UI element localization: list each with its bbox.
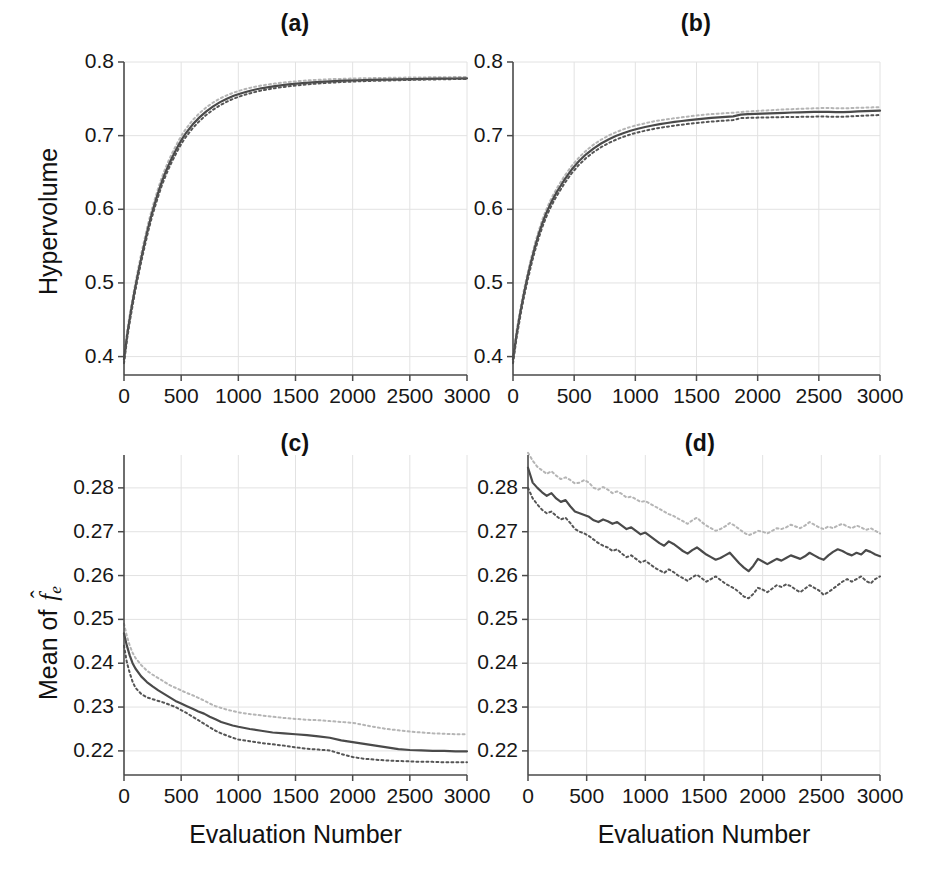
y-tick-label-b: 0.6 [474, 196, 503, 220]
y-tick-label-c: 0.28 [73, 475, 114, 499]
y-tick-label-a: 0.4 [85, 344, 114, 368]
y-tick-label-d: 0.24 [477, 650, 518, 674]
y-axis-title-prefix: Mean of [34, 603, 62, 700]
axes-b [507, 62, 880, 381]
y-tick-label-c: 0.23 [73, 694, 114, 718]
panel-d: 0.220.230.240.250.260.270.28050010001500… [418, 443, 894, 821]
y-axis-title-mean-fe: Mean of ̂fe [34, 585, 66, 700]
y-tick-label-b: 0.4 [474, 344, 503, 368]
y-tick-label-d: 0.23 [477, 694, 518, 718]
gridlines-c [124, 455, 467, 775]
panel-title-b: (b) [636, 10, 756, 37]
subscript-e: e [46, 586, 65, 594]
y-tick-label-c: 0.25 [73, 606, 114, 630]
figure-canvas: 0.40.50.60.70.8050010001500200025003000 … [0, 0, 936, 871]
y-tick-label-d: 0.26 [477, 563, 518, 587]
y-tick-label-a: 0.6 [85, 196, 114, 220]
gridlines-b [513, 62, 880, 375]
y-tick-label-b: 0.8 [474, 49, 503, 73]
plot-area-c [14, 443, 481, 821]
x-tick-label-b: 3000 [840, 384, 920, 408]
axes-d [522, 455, 880, 781]
y-tick-label-c: 0.26 [73, 563, 114, 587]
y-tick-label-b: 0.7 [474, 123, 503, 147]
x-axis-title-d: Evaluation Number [528, 820, 880, 849]
y-tick-label-a: 0.5 [85, 270, 114, 294]
y-tick-label-b: 0.5 [474, 270, 503, 294]
y-axis-title-hypervolume: Hypervolume [34, 148, 63, 295]
y-tick-label-c: 0.22 [73, 738, 114, 762]
y-tick-label-d: 0.22 [477, 738, 518, 762]
y-tick-label-c: 0.24 [73, 650, 114, 674]
f-hat-symbol: ̂fe [35, 585, 66, 603]
panel-title-d: (d) [640, 430, 760, 457]
plot-area-d [418, 443, 894, 821]
f-glyph: f [35, 594, 62, 601]
x-tick-label-d: 3000 [840, 784, 920, 808]
y-tick-label-d: 0.28 [477, 475, 518, 499]
panel-c: 0.220.230.240.250.260.270.28050010001500… [14, 443, 481, 821]
gridlines-d [528, 455, 880, 775]
panel-title-c: (c) [235, 430, 355, 457]
panel-b: 0.40.50.60.70.8050010001500200025003000 [403, 50, 894, 421]
y-tick-label-c: 0.27 [73, 519, 114, 543]
y-tick-label-a: 0.8 [85, 49, 114, 73]
panel-title-a: (a) [235, 10, 355, 37]
x-axis-title-c: Evaluation Number [124, 820, 467, 849]
y-tick-label-d: 0.25 [477, 606, 518, 630]
y-tick-label-d: 0.27 [477, 519, 518, 543]
y-tick-label-a: 0.7 [85, 123, 114, 147]
